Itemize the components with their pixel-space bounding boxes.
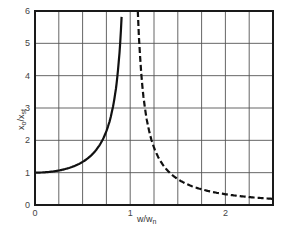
curve-above-resonance	[138, 11, 273, 199]
y-tick-label: 4	[25, 71, 30, 81]
y-tick-label: 1	[25, 168, 30, 178]
x-tick-label: 1	[128, 208, 133, 218]
curve-below-resonance	[35, 17, 122, 173]
tick-labels: 0123456012	[25, 6, 228, 218]
x-axis-label: w/wn	[136, 214, 157, 225]
response-chart: 0123456012 w/wn xo/xst	[0, 0, 287, 234]
y-tick-label: 2	[25, 135, 30, 145]
y-axis-label: xo/xst	[16, 109, 27, 130]
y-tick-label: 0	[25, 200, 30, 210]
y-tick-label: 6	[25, 6, 30, 16]
y-tick-label: 5	[25, 38, 30, 48]
grid-lines	[35, 11, 273, 205]
x-tick-label: 0	[32, 208, 37, 218]
x-tick-label: 2	[223, 208, 228, 218]
